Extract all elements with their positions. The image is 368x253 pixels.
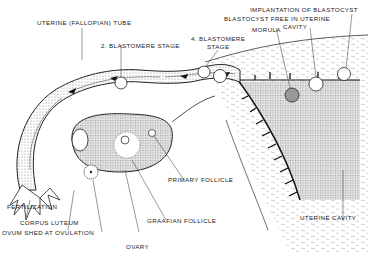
label-four-blastomere-line1: 4. BLASTOMERE: [191, 35, 245, 42]
blastocyst-implanting: [338, 68, 351, 81]
label-four-blastomere-line2: STAGE: [207, 43, 230, 50]
label-graafian-follicle: GRAAFIAN FOLLICLE: [147, 217, 216, 224]
label-morula: MORULA: [252, 26, 281, 33]
label-ovum-shed: OVUM SHED AT OVULATION: [2, 229, 94, 236]
graafian-follicle-shape: [114, 132, 140, 158]
label-ovary: OVARY: [126, 243, 149, 250]
diagram-canvas: UTERINE (FALLOPIAN) TUBE 2. BLASTOMERE S…: [0, 0, 368, 253]
morula-embryo: [285, 88, 299, 102]
two-blastomere-embryo: [115, 77, 127, 89]
label-two-blastomere-stage: 2. BLASTOMERE STAGE: [101, 42, 180, 49]
blastocyst-free: [309, 77, 323, 91]
label-implantation: IMPLANTATION OF BLASTOCYST: [250, 6, 358, 13]
label-fertilization: FERTILIZATION: [7, 203, 57, 210]
label-uterine-tube: UTERINE (FALLOPIAN) TUBE: [37, 19, 131, 26]
label-blastocyst-free-line2: CAVITY: [283, 23, 307, 30]
label-blastocyst-free-line1: BLASTOCYST FREE IN UTERINE: [224, 15, 330, 22]
label-uterine-cavity: UTERINE CAVITY: [300, 214, 356, 221]
label-corpus-luteum: CORPUS LUTEUM: [20, 219, 79, 226]
label-primary-follicle: PRIMARY FOLLICLE: [168, 176, 233, 183]
